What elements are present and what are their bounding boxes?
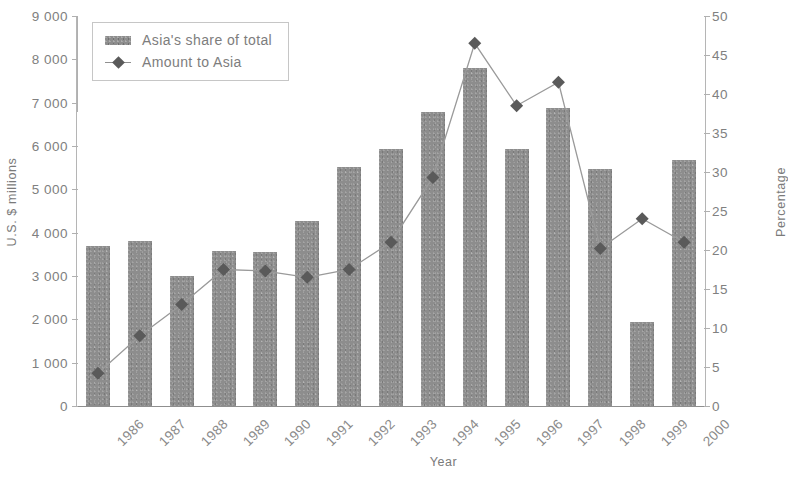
y-axis-left-tick-mark [72,233,78,234]
y-axis-right-tick-label: 0 [712,399,752,414]
data-point-marker[interactable] [636,212,649,225]
x-axis-tick-label: 1987 [156,416,189,449]
data-point-marker[interactable] [301,271,314,284]
x-axis-tick-label: 1995 [491,416,524,449]
data-point-marker[interactable] [426,171,439,184]
y-axis-right-tick-mark [704,211,710,212]
y-axis-left-tick-mark [72,189,78,190]
y-axis-right-ticks: 50454035302520151050 [712,0,762,485]
x-axis-tick-label: 1989 [240,416,273,449]
x-axis-tick-label: 1996 [533,416,566,449]
y-axis-left-tick-label: 2 000 [6,312,68,327]
y-axis-right-tick-mark [704,55,710,56]
y-axis-left-tick-label: 5 000 [6,182,68,197]
data-point-marker[interactable] [552,76,565,89]
y-axis-left-tick-mark [72,103,78,104]
y-axis-right-title: Percentage [774,127,788,277]
data-point-marker[interactable] [594,242,607,255]
y-axis-right-tick-mark [704,328,710,329]
y-axis-right-tick-mark [704,133,710,134]
y-axis-left-tick-mark [72,276,78,277]
y-axis-right-tick-mark [704,367,710,368]
y-axis-right-tick-label: 10 [712,321,752,336]
y-axis-left-tick-label: 7 000 [6,95,68,110]
x-axis-tick-label: 1986 [114,416,147,449]
y-axis-right-tick-label: 15 [712,282,752,297]
legend-item-line: Amount to Asia [105,51,272,73]
y-axis-right-tick-label: 45 [712,48,752,63]
y-axis-left-tick-label: 8 000 [6,52,68,67]
y-axis-right-tick-label: 30 [712,165,752,180]
y-axis-right-tick-mark [704,94,710,95]
x-axis-tick-label: 1993 [407,416,440,449]
y-axis-left-tick-mark [72,16,78,17]
y-axis-right-tick-label: 35 [712,126,752,141]
y-axis-left-tick-mark [72,146,78,147]
data-point-marker[interactable] [343,263,356,276]
y-axis-right-tick-mark [704,172,710,173]
y-axis-right-tick-mark [704,406,710,407]
y-axis-right-tick-label: 5 [712,360,752,375]
legend-item-bars: Asia's share of total [105,29,272,51]
y-axis-left-tick-label: 4 000 [6,225,68,240]
x-axis-tick-label: 1998 [616,416,649,449]
y-axis-right-tick-mark [704,289,710,290]
y-axis-left-tick-label: 1 000 [6,355,68,370]
x-axis-tick-label: 1990 [281,416,314,449]
data-point-marker[interactable] [259,265,272,278]
data-point-marker[interactable] [678,236,691,249]
y-axis-right-tick-mark [704,16,710,17]
y-axis-right-tick-label: 20 [712,243,752,258]
y-axis-left-tick-mark [72,59,78,60]
y-axis-left-tick-label: 0 [6,399,68,414]
x-axis-tick-label: 1991 [323,416,356,449]
y-axis-right-tick-label: 40 [712,87,752,102]
y-axis-left-tick-label: 3 000 [6,269,68,284]
y-axis-right-tick-mark [704,250,710,251]
y-axis-left-tick-mark [72,319,78,320]
x-axis-tick-label: 1988 [198,416,231,449]
legend-label-line: Amount to Asia [142,54,242,70]
x-axis-tick-label: 1994 [449,416,482,449]
y-axis-left-tick-label: 9 000 [6,9,68,24]
data-point-marker[interactable] [510,99,523,112]
y-axis-right-tick-label: 50 [712,9,752,24]
x-axis-tick-label: 1997 [574,416,607,449]
data-point-marker[interactable] [468,37,481,50]
line-path [98,43,684,373]
data-point-marker[interactable] [385,236,398,249]
legend-label-bars: Asia's share of total [142,32,272,48]
x-axis-tick-label: 1992 [365,416,398,449]
x-axis-tick-label: 1999 [658,416,691,449]
y-axis-right-tick-label: 25 [712,204,752,219]
bar-swatch-icon [105,36,131,45]
x-axis-tick-labels: 1986198719881989199019911992199319941995… [76,406,704,476]
chart-legend: Asia's share of total Amount to Asia [92,22,289,81]
y-axis-left-ticks: 9 0008 0007 0006 0005 0004 0003 0002 000… [0,0,68,485]
y-axis-left-tick-label: 6 000 [6,139,68,154]
y-axis-left-tick-mark [72,363,78,364]
diamond-line-icon [105,56,131,68]
